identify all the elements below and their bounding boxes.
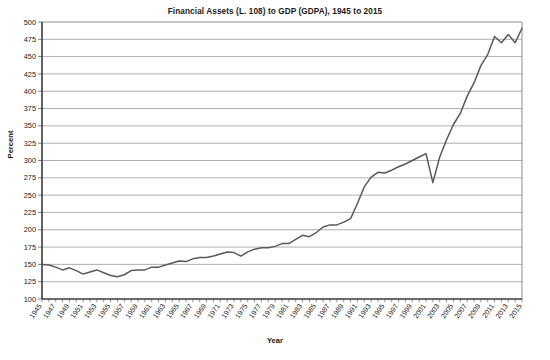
y-tick-label: 450 bbox=[24, 52, 36, 61]
x-tick-label: 1985 bbox=[302, 303, 318, 321]
x-tick-label: 1973 bbox=[220, 303, 236, 321]
y-tick-label: 275 bbox=[24, 173, 36, 182]
x-tick-label: 1951 bbox=[69, 303, 85, 321]
y-tick-label: 400 bbox=[24, 87, 36, 96]
x-tick-label: 2011 bbox=[481, 303, 496, 320]
x-tick-label: 1967 bbox=[179, 303, 195, 321]
x-tick-label: 2003 bbox=[426, 303, 442, 321]
x-tick-label: 1991 bbox=[343, 303, 359, 321]
x-tick-label: 1975 bbox=[234, 303, 250, 321]
x-tick-label: 1947 bbox=[42, 303, 58, 321]
x-tick-label: 1959 bbox=[124, 303, 140, 321]
y-tick-label: 300 bbox=[24, 156, 36, 165]
y-tick-label: 425 bbox=[24, 70, 36, 79]
y-tick-label: 375 bbox=[24, 104, 36, 113]
x-tick-label: 2001 bbox=[412, 303, 428, 321]
x-tick-label: 1971 bbox=[206, 303, 222, 321]
x-tick-label: 1983 bbox=[289, 303, 305, 321]
x-tick-label: 1979 bbox=[261, 303, 277, 321]
x-tick-label: 1997 bbox=[385, 303, 401, 321]
x-tick-label: 2013 bbox=[494, 303, 510, 321]
x-tick-label: 1953 bbox=[83, 303, 99, 321]
x-tick-label: 2009 bbox=[467, 303, 483, 321]
y-tick-label: 175 bbox=[24, 243, 36, 252]
y-tick-label: 100 bbox=[24, 295, 36, 304]
x-tick-label: 1999 bbox=[398, 303, 414, 321]
series-line bbox=[42, 28, 522, 277]
x-tick-label: 1949 bbox=[55, 303, 71, 321]
gridlines bbox=[42, 39, 522, 281]
x-tick-label: 1957 bbox=[110, 303, 126, 321]
y-tick-label: 325 bbox=[24, 139, 36, 148]
chart-figure: Financial Assets (L. 108) to GDP (GDPA),… bbox=[0, 0, 550, 360]
x-tick-label: 1969 bbox=[193, 303, 209, 321]
x-tick-label: 2005 bbox=[439, 303, 455, 321]
x-tick-label: 1987 bbox=[316, 303, 332, 321]
x-tick-label: 2007 bbox=[453, 303, 469, 321]
y-tick-label: 500 bbox=[24, 18, 36, 27]
x-tick-label: 1963 bbox=[151, 303, 167, 321]
x-tick-label: 1955 bbox=[97, 303, 113, 321]
y-tick-label: 475 bbox=[24, 35, 36, 44]
x-tick-label: 1977 bbox=[247, 303, 263, 321]
y-tick-label: 200 bbox=[24, 225, 36, 234]
y-tick-label: 225 bbox=[24, 208, 36, 217]
x-tick-label: 1961 bbox=[138, 303, 154, 321]
x-axis-ticks: 1945194719491951195319551957195919611963… bbox=[28, 299, 524, 320]
plot-area: 5004754504254003753503253002752502252001… bbox=[0, 0, 550, 360]
y-tick-label: 350 bbox=[24, 121, 36, 130]
y-tick-label: 125 bbox=[24, 277, 36, 286]
x-tick-label: 1995 bbox=[371, 303, 387, 321]
x-tick-label: 1965 bbox=[165, 303, 181, 321]
x-tick-label: 1989 bbox=[330, 303, 346, 321]
data-series bbox=[42, 28, 522, 277]
x-tick-label: 1945 bbox=[28, 303, 44, 321]
y-tick-label: 250 bbox=[24, 191, 36, 200]
x-tick-label: 1993 bbox=[357, 303, 373, 321]
y-axis-ticks: 5004754504254003753503253002752502252001… bbox=[24, 18, 42, 304]
x-tick-label: 1981 bbox=[275, 303, 291, 321]
y-tick-label: 150 bbox=[24, 260, 36, 269]
x-tick-label: 2015 bbox=[508, 303, 524, 321]
